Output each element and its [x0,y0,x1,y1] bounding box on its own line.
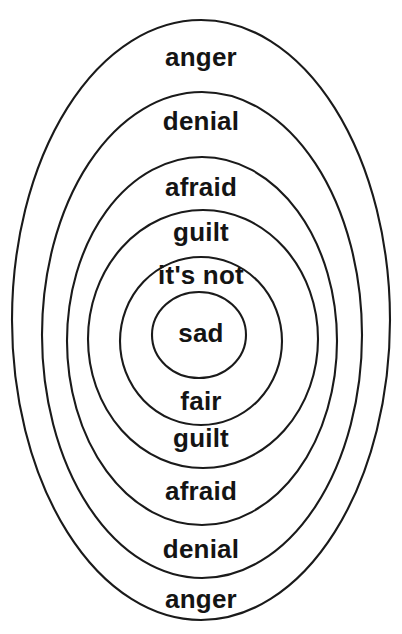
ring-bottom-label-anger: anger [0,586,402,612]
ring-top-label-anger: anger [0,44,402,70]
ring-top-label-its-not: it's not [0,262,402,288]
emotion-rings-diagram: anger denial afraid guilt it's not sad f… [0,0,402,634]
ring-bottom-label-guilt: guilt [0,425,402,451]
ring-center-label-sad: sad [0,320,402,346]
ring-bottom-label-denial: denial [0,536,402,562]
ring-top-label-afraid: afraid [0,174,402,200]
ring-bottom-label-fair: fair [0,388,402,414]
ring-top-label-guilt: guilt [0,219,402,245]
ring-bottom-label-afraid: afraid [0,478,402,504]
ring-top-label-denial: denial [0,108,402,134]
